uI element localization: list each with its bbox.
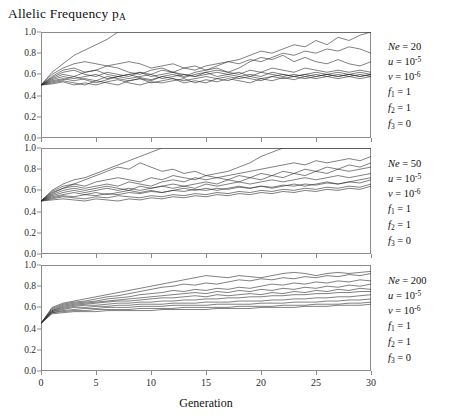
trajectory-lines-ne-200 (41, 265, 371, 371)
plot-panel-ne-20: 1.00.80.60.40.20.0 (41, 32, 371, 138)
x-axis-tick-label: 30 (366, 377, 376, 388)
y-axis-tick-mark (37, 74, 41, 75)
x-axis-tick-mark (96, 138, 97, 142)
legend-panel-ne-50: Ne = 50u = 10-5v = 10-6f1 = 1f2 = 1f3 = … (388, 157, 462, 249)
x-axis-tick-mark (316, 138, 317, 142)
y-axis-tick-label: 0.6 (24, 69, 36, 79)
x-axis-tick-label: 5 (94, 377, 99, 388)
trajectory-line (41, 55, 371, 85)
x-axis-tick-mark (96, 371, 97, 375)
figure-canvas: Allelic Frequency pA 1.00.80.60.40.20.0 … (0, 0, 462, 419)
legend-u: u = 10-5 (388, 172, 462, 187)
legend-v: v = 10-6 (388, 304, 462, 319)
trajectory-line (41, 273, 371, 323)
x-axis-tick-mark (261, 254, 262, 258)
trajectory-line (41, 77, 371, 85)
trajectory-line (41, 148, 371, 201)
legend-f3: f3 = 0 (388, 234, 462, 250)
trajectory-line (41, 32, 371, 85)
y-axis-tick-mark (37, 232, 41, 233)
legend-f2: f2 = 1 (388, 218, 462, 234)
trajectory-line (41, 32, 371, 85)
y-axis-tick-mark (37, 95, 41, 96)
y-axis-tick-label: 0.8 (24, 281, 36, 291)
legend-ne: Ne = 200 (388, 274, 462, 289)
y-axis-tick-mark (37, 349, 41, 350)
x-axis-tick-mark (206, 254, 207, 258)
y-axis-tick-mark (37, 53, 41, 54)
x-axis-tick-mark (316, 371, 317, 375)
y-axis-tick-label: 0.6 (24, 302, 36, 312)
figure-title: Allelic Frequency pA (8, 6, 126, 22)
legend-f1: f1 = 1 (388, 202, 462, 218)
legend-panel-ne-20: Ne = 20u = 10-5v = 10-6f1 = 1f2 = 1f3 = … (388, 40, 462, 132)
y-axis-tick-label: 0.4 (24, 91, 36, 101)
legend-u: u = 10-5 (388, 289, 462, 304)
y-axis-tick-label: 0.0 (24, 249, 36, 259)
legend-v: v = 10-6 (388, 70, 462, 85)
y-axis-tick-mark (37, 190, 41, 191)
legend-f3: f3 = 0 (388, 351, 462, 367)
x-axis-tick-mark (261, 138, 262, 142)
legend-v: v = 10-6 (388, 187, 462, 202)
legend-f1: f1 = 1 (388, 85, 462, 101)
y-axis-tick-label: 0.4 (24, 324, 36, 334)
plot-panel-ne-200: 1.00.80.60.40.20.0051015202530 (41, 265, 371, 371)
x-axis-tick-mark (261, 371, 262, 375)
x-axis-tick-mark (41, 254, 42, 258)
x-axis-tick-mark (371, 254, 372, 258)
y-axis-tick-label: 0.8 (24, 164, 36, 174)
y-axis-tick-mark (37, 307, 41, 308)
y-axis-tick-label: 1.0 (24, 27, 36, 37)
trajectory-lines-ne-20 (41, 32, 371, 138)
y-axis-tick-label: 0.2 (24, 345, 36, 355)
x-axis-tick-mark (371, 138, 372, 142)
x-axis-tick-label: 15 (201, 377, 211, 388)
x-axis-tick-mark (151, 254, 152, 258)
x-axis-tick-label: 25 (311, 377, 321, 388)
legend-ne: Ne = 20 (388, 40, 462, 55)
x-axis-tick-mark (151, 371, 152, 375)
y-axis-tick-mark (37, 148, 41, 149)
y-axis-tick-mark (37, 32, 41, 33)
y-axis-tick-label: 0.2 (24, 112, 36, 122)
y-axis-tick-mark (37, 211, 41, 212)
x-axis-tick-mark (96, 254, 97, 258)
y-axis-tick-label: 0.4 (24, 207, 36, 217)
x-axis-tick-mark (151, 138, 152, 142)
x-axis-tick-mark (41, 371, 42, 375)
y-axis-tick-mark (37, 286, 41, 287)
legend-ne: Ne = 50 (388, 157, 462, 172)
legend-panel-ne-200: Ne = 200u = 10-5v = 10-6f1 = 1f2 = 1f3 =… (388, 274, 462, 366)
legend-f1: f1 = 1 (388, 319, 462, 335)
x-axis-tick-mark (206, 138, 207, 142)
legend-f3: f3 = 0 (388, 117, 462, 133)
trajectory-line (41, 148, 371, 201)
y-axis-tick-mark (37, 169, 41, 170)
plot-panel-ne-50: 1.00.80.60.40.20.0 (41, 148, 371, 254)
x-axis-tick-label: 10 (146, 377, 156, 388)
x-axis-tick-label: 20 (256, 377, 266, 388)
figure-title-subscript: A (119, 12, 126, 22)
trajectory-line (41, 184, 371, 201)
x-axis-tick-label: 0 (39, 377, 44, 388)
x-axis-tick-mark (41, 138, 42, 142)
y-axis-tick-label: 0.0 (24, 366, 36, 376)
y-axis-tick-label: 0.2 (24, 228, 36, 238)
y-axis-tick-mark (37, 116, 41, 117)
figure-title-text: Allelic Frequency p (8, 6, 119, 21)
y-axis-tick-label: 0.0 (24, 133, 36, 143)
legend-u: u = 10-5 (388, 55, 462, 70)
x-axis-tick-mark (316, 254, 317, 258)
y-axis-tick-label: 1.0 (24, 143, 36, 153)
x-axis-tick-mark (371, 371, 372, 375)
y-axis-tick-label: 0.6 (24, 185, 36, 195)
y-axis-tick-label: 1.0 (24, 260, 36, 270)
y-axis-tick-mark (37, 265, 41, 266)
trajectory-line (41, 271, 371, 323)
y-axis-tick-mark (37, 328, 41, 329)
y-axis-tick-label: 0.8 (24, 48, 36, 58)
legend-f2: f2 = 1 (388, 335, 462, 351)
trajectory-lines-ne-50 (41, 148, 371, 254)
legend-f2: f2 = 1 (388, 101, 462, 117)
